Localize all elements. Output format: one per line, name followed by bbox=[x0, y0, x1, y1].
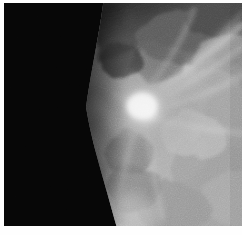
radiograph-canvas bbox=[4, 3, 242, 226]
mammogram-frame bbox=[0, 0, 242, 235]
mammogram-image bbox=[4, 3, 242, 226]
right-edge-falloff bbox=[230, 3, 242, 226]
